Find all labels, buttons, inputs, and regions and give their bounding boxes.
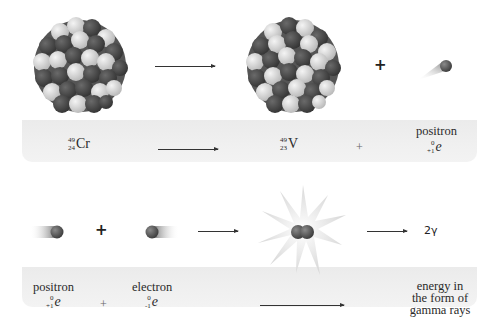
plus-sign: + (95, 221, 108, 239)
reaction-arrow-icon (367, 231, 407, 232)
equation-arrow-icon (158, 149, 218, 150)
positron-symbol: 0+1 e (46, 294, 61, 310)
chromium-nuclide: 4924 Cr (68, 136, 90, 152)
plus-sign: + (100, 297, 107, 312)
chromium-nucleus-icon (30, 16, 130, 116)
equation-arrow-icon (260, 305, 344, 306)
electron-label: electron (132, 280, 172, 295)
positron-symbol: 0+1 e (427, 139, 442, 155)
plus-sign: + (374, 56, 387, 74)
plus-sign: + (356, 140, 363, 155)
electron-particle-icon (143, 222, 179, 242)
gamma-rays-symbol: 2γ (424, 224, 438, 237)
vanadium-nuclide: 4923 V (280, 136, 298, 152)
positron-particle-icon (416, 54, 456, 84)
positron-label: positron (33, 280, 74, 295)
equation-band-positron-emission (22, 120, 477, 162)
energy-gamma-rays-label: energy in the form of gamma rays (400, 280, 480, 316)
reaction-arrow-icon (198, 231, 238, 232)
electron-symbol: 0-1 e (145, 294, 158, 310)
positron-particle-icon (30, 222, 66, 242)
positron-label: positron (416, 124, 457, 139)
vanadium-nucleus-icon (243, 16, 343, 116)
reaction-arrow-icon (155, 66, 215, 67)
annihilation-burst-icon (258, 185, 348, 277)
